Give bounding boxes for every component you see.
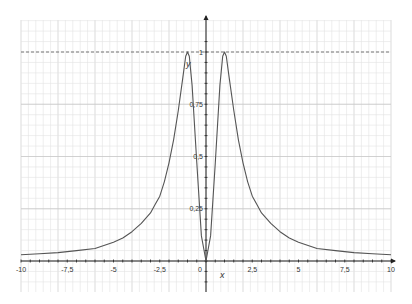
y-tick-label: 0,5 xyxy=(193,153,203,160)
y-tick-label: 0,25 xyxy=(189,205,203,212)
x-tick-label: -7,5 xyxy=(61,266,73,273)
x-axis-label: x xyxy=(219,270,225,280)
y-tick-label: 1 xyxy=(199,49,203,56)
function-plot: -10-7,5-5-2,52,557,5100,250,50,751 x y 0 xyxy=(0,0,412,304)
x-tick-label: 7,5 xyxy=(340,266,350,273)
x-tick-label: -10 xyxy=(16,266,26,273)
y-axis-label: y xyxy=(185,59,191,69)
x-tick-label: 5 xyxy=(297,266,301,273)
y-tick-label: 0,75 xyxy=(189,101,203,108)
x-tick-label: -5 xyxy=(110,266,116,273)
x-tick-label: 10 xyxy=(387,266,395,273)
origin-label: 0 xyxy=(198,266,202,273)
x-tick-label: 2,5 xyxy=(247,266,257,273)
x-tick-label: -2,5 xyxy=(154,266,166,273)
